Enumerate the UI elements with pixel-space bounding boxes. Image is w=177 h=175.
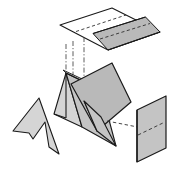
- geometry-illustration: [0, 0, 177, 175]
- right-plane: [137, 96, 166, 162]
- top-plane: [60, 8, 160, 50]
- right-plane-face: [137, 96, 166, 162]
- arrow-section: [13, 98, 59, 154]
- figure-root: [0, 0, 177, 175]
- arrow-section-face: [13, 98, 59, 154]
